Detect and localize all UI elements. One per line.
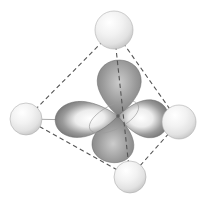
atom-top (95, 11, 133, 49)
atom-bottom (114, 161, 146, 193)
d-orbital (54, 59, 171, 166)
orbital-tetrahedron-figure: d orbital at the center of a tetrahedral… (0, 0, 208, 198)
atom-spheres (10, 11, 196, 193)
atom-left (10, 103, 42, 135)
orbital-center-node (116, 114, 120, 118)
atom-right (162, 105, 196, 139)
scene-svg: d orbital at the center of a tetrahedral… (0, 0, 208, 198)
